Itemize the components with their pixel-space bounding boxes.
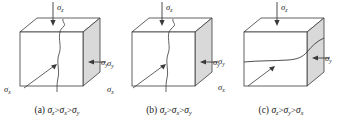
panel-b-diagram [112,0,226,108]
cube-front-face [20,32,83,86]
label-sigma-x-left: σx [107,84,114,94]
label-sigma-z-top: σz [166,2,172,12]
panel-b: σz σy σy σx (b) σz>σx>σy [112,0,226,130]
label-sigma-y-left: σy [107,58,114,68]
label-sigma-z-top: σz [57,2,63,12]
label-sigma-x-left: σx [218,82,225,92]
caption-sigma-2: σ [172,105,177,115]
label-sigma-z-top: σz [281,2,287,12]
label-sigma-x-left: σx [4,84,11,94]
panel-c: σz σy σy σx (c) σz>σy>σx [224,0,338,130]
panel-c-caption: (c) σz>σy>σx [224,105,338,115]
panel-a-diagram [0,0,114,108]
panel-a: σz σy σx (a) σz>σx>σy [0,0,114,130]
stress-crack-figure: σz σy σx (a) σz>σx>σy σz [0,0,343,130]
cube-front-face [132,32,195,86]
panel-c-diagram [224,0,338,108]
label-sigma-y-left: σy [218,56,225,66]
panel-b-caption: (b) σz>σx>σy [112,105,226,115]
panel-a-caption: (a) σz>σx>σy [0,105,114,115]
caption-index: (b) [146,105,157,115]
caption-index: (a) [34,105,45,115]
label-sigma-y-right: σy [325,53,332,63]
cube-front-face [244,32,307,86]
caption-index: (c) [258,105,269,115]
